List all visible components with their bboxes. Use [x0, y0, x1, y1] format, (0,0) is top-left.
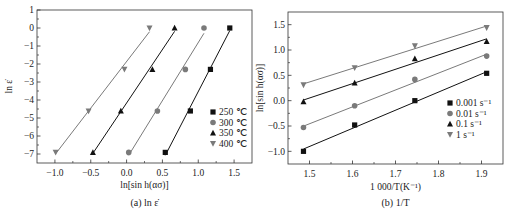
y-tick-label: 0 [29, 23, 34, 33]
square-marker-icon [227, 25, 232, 30]
circle-marker-icon [126, 150, 132, 156]
legend: 0.001 s⁻¹0.01 s⁻¹0.1 s⁻¹1 s⁻¹ [447, 98, 491, 140]
x-axis-label: ln[sin h(ασ)] [120, 180, 168, 191]
y-tick-label: 0.0 [273, 96, 285, 106]
legend-label: 300 ℃ [219, 118, 247, 128]
legend-label: 0.001 s⁻¹ [456, 98, 491, 108]
y-axis-label: ln ε̇ [4, 79, 14, 94]
y-tick-label: −3 [24, 77, 34, 87]
subfigure-caption: (a) ln ε̇ [130, 197, 159, 209]
legend-label: 0.01 s⁻¹ [456, 109, 487, 119]
series-300 [126, 25, 207, 155]
series-350 [90, 25, 178, 155]
y-tick-label: 0.5 [273, 71, 285, 81]
x-tick-label: 1.6 [347, 169, 359, 179]
legend-label: 1 s⁻¹ [456, 130, 475, 140]
x-tick-label: 1.7 [390, 169, 402, 179]
triangle-up-marker-icon [172, 25, 178, 31]
triangle-down-marker-icon [484, 25, 490, 31]
fit-line [129, 33, 204, 155]
triangle-up-marker-icon [210, 130, 216, 136]
y-tick-label: −0.5 [268, 121, 285, 131]
y-tick-label: −2 [24, 59, 34, 69]
square-marker-icon [163, 150, 168, 155]
x-tick-label: −1.0 [46, 168, 63, 178]
y-axis-label: ln[sin h(ασ)] [255, 64, 266, 112]
x-tick-label: 1.0 [192, 168, 204, 178]
x-tick-label: 0.5 [156, 168, 168, 178]
square-marker-icon [352, 122, 357, 127]
y-tick-label: −7 [24, 149, 34, 159]
triangle-down-marker-icon [53, 150, 59, 156]
series-400 [53, 25, 153, 155]
figure-canvas: −1.0−0.50.00.51.01.510−1−2−3−4−5−6−7250 … [0, 0, 510, 215]
y-tick-label: 1.5 [273, 20, 285, 30]
square-marker-icon [210, 109, 215, 114]
circle-marker-icon [447, 111, 453, 117]
x-tick-label: −0.5 [82, 168, 99, 178]
triangle-down-marker-icon [121, 67, 127, 73]
y-tick-label: −1.0 [268, 147, 285, 157]
legend-label: 400 ℃ [219, 139, 247, 149]
legend-label: 350 ℃ [219, 128, 247, 138]
chart-a-ln-strain-rate: −1.0−0.50.00.51.01.510−1−2−3−4−5−6−7250 … [4, 5, 252, 209]
y-tick-label: 1.0 [273, 45, 285, 55]
square-marker-icon [301, 149, 306, 154]
x-tick-label: 0.0 [121, 168, 133, 178]
chart-b-inverse-temperature: 1.51.61.71.81.91.51.00.50.0−0.5−1.00.001… [255, 12, 503, 209]
legend-label: 0.1 s⁻¹ [456, 119, 482, 129]
y-tick-label: −1 [24, 41, 34, 51]
triangle-up-marker-icon [447, 121, 453, 127]
triangle-down-marker-icon [447, 132, 453, 138]
triangle-down-marker-icon [210, 141, 216, 147]
fit-line [56, 32, 150, 154]
legend: 250 ℃300 ℃350 ℃400 ℃ [210, 107, 247, 149]
square-marker-icon [188, 108, 193, 113]
fit-line [93, 31, 175, 153]
circle-marker-icon [210, 120, 216, 126]
circle-marker-icon [352, 103, 358, 109]
circle-marker-icon [412, 77, 418, 83]
triangle-up-marker-icon [412, 55, 418, 61]
fit-line [303, 39, 486, 100]
circle-marker-icon [201, 25, 207, 31]
plot-frame [288, 12, 503, 164]
triangle-down-marker-icon [300, 82, 306, 88]
square-marker-icon [447, 100, 452, 105]
series-0.1s [300, 38, 489, 104]
square-marker-icon [412, 98, 417, 103]
series-1s [300, 25, 489, 88]
x-axis-label: 1 000/T(K⁻¹) [370, 182, 421, 193]
x-tick-label: 1.5 [228, 168, 240, 178]
x-tick-label: 1.5 [304, 169, 316, 179]
circle-marker-icon [183, 67, 189, 73]
y-tick-label: −4 [24, 95, 34, 105]
y-tick-label: 1 [29, 5, 34, 15]
circle-marker-icon [484, 53, 490, 59]
square-marker-icon [208, 67, 213, 72]
y-tick-label: −6 [24, 131, 34, 141]
y-tick-label: −5 [24, 113, 34, 123]
square-marker-icon [484, 71, 489, 76]
fit-line [303, 26, 486, 84]
circle-marker-icon [155, 108, 161, 114]
x-tick-label: 1.9 [476, 169, 488, 179]
subfigure-caption: (b) 1/T [381, 197, 409, 209]
circle-marker-icon [301, 125, 307, 131]
triangle-down-marker-icon [147, 25, 153, 31]
legend-label: 250 ℃ [219, 107, 247, 117]
x-tick-label: 1.8 [433, 169, 445, 179]
